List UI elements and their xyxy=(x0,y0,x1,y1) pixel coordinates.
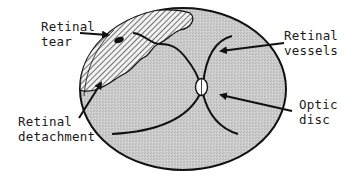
label-retinal-vessels: Retinal vessels xyxy=(284,28,338,58)
label-retinal-detachment: Retinal detachment xyxy=(18,114,95,144)
label-retinal-tear: Retinal tear xyxy=(41,19,95,49)
optic-disc xyxy=(196,79,208,96)
label-optic-disc: Optic disc xyxy=(299,97,338,127)
